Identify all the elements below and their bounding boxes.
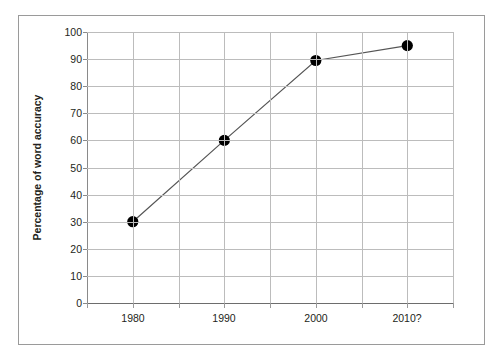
x-gridline	[270, 32, 271, 303]
y-axis-tick-label: 40	[54, 190, 82, 201]
x-axis-tick-mark	[362, 303, 363, 308]
y-axis-tick-label: 60	[54, 135, 82, 146]
y-axis-tick-mark	[83, 222, 87, 223]
x-axis-tick-mark	[407, 303, 408, 308]
y-axis-tick-label: 50	[54, 163, 82, 174]
y-axis-tick-mark	[83, 32, 87, 33]
chart-figure: Percentage of word accuracy 010203040506…	[0, 0, 502, 357]
y-axis-title: Percentage of word accuracy	[30, 32, 44, 303]
x-axis-tick-label: 2000	[276, 313, 356, 324]
x-axis-tick-mark	[133, 303, 134, 308]
x-axis-tick-label: 2010?	[367, 313, 447, 324]
x-axis-tick-mark	[316, 303, 317, 308]
y-axis-tick-label: 20	[54, 244, 82, 255]
x-axis-tick-label: 1980	[93, 313, 173, 324]
x-gridline	[224, 32, 225, 303]
y-axis-tick-label: 100	[54, 27, 82, 38]
x-gridline	[133, 32, 134, 303]
y-axis-tick-label: 0	[54, 298, 82, 309]
x-gridline	[179, 32, 180, 303]
y-axis-tick-label: 30	[54, 217, 82, 228]
x-axis-tick-mark	[270, 303, 271, 308]
y-axis-tick-label: 70	[54, 108, 82, 119]
y-axis-tick-mark	[83, 59, 87, 60]
y-axis-tick-mark	[83, 276, 87, 277]
x-axis-tick-mark	[87, 303, 88, 308]
y-axis-tick-mark	[83, 86, 87, 87]
y-axis-tick-mark	[83, 195, 87, 196]
x-gridline	[407, 32, 408, 303]
x-gridline	[362, 32, 363, 303]
y-axis-tick-mark	[83, 249, 87, 250]
y-axis-tick-mark	[83, 113, 87, 114]
y-axis-tick-label: 90	[54, 54, 82, 65]
x-gridline	[453, 32, 454, 303]
y-axis-tick-label: 80	[54, 81, 82, 92]
x-axis-tick-labels: 1980199020002010?	[87, 313, 453, 329]
x-axis-tick-mark	[224, 303, 225, 308]
x-axis-tick-mark	[179, 303, 180, 308]
y-axis-tick-mark	[83, 140, 87, 141]
x-axis-tick-label: 1990	[184, 313, 264, 324]
y-axis-tick-mark	[83, 168, 87, 169]
y-axis-tick-label: 10	[54, 271, 82, 282]
x-axis-tick-mark	[453, 303, 454, 308]
x-gridline	[316, 32, 317, 303]
plot-area	[87, 32, 453, 303]
y-axis-tick-labels: 0102030405060708090100	[52, 32, 82, 303]
